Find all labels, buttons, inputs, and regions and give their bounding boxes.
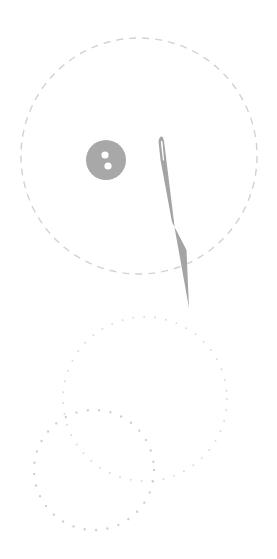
dotted-circle-small	[34, 410, 154, 530]
dotted-circle-large	[63, 317, 227, 481]
button-icon	[86, 140, 126, 180]
sewing-illustration	[0, 0, 277, 559]
dashed-circle	[21, 38, 257, 274]
needle-icon	[159, 137, 190, 309]
